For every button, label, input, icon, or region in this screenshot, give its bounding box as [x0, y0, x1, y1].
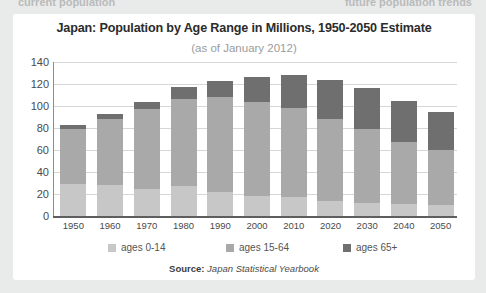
- bar-segment-2030-ages-65-[interactable]: [354, 88, 380, 129]
- x-axis-tick-2010: 2010: [274, 220, 314, 231]
- bar-segment-2000-ages-15-64[interactable]: [244, 102, 270, 197]
- bar-segment-2020-ages-65-[interactable]: [317, 80, 343, 120]
- x-axis-tick-2050: 2050: [421, 220, 461, 231]
- bar-segment-2050-ages-65-[interactable]: [428, 112, 454, 151]
- x-axis-tick-1990: 1990: [200, 220, 240, 231]
- top-right-text-fragment: future population trends: [345, 0, 472, 8]
- bar-segment-1960-ages-15-64[interactable]: [97, 119, 123, 185]
- y-axis-tick-20: 20: [17, 189, 49, 200]
- bar-segment-2030-ages-0-14[interactable]: [354, 203, 380, 216]
- legend-swatch-icon: [226, 244, 234, 252]
- bar-segment-1960-ages-0-14[interactable]: [97, 185, 123, 216]
- legend-item-ages-15-64[interactable]: ages 15-64: [226, 242, 289, 253]
- y-axis-tick-80: 80: [17, 123, 49, 134]
- bar-segment-2020-ages-0-14[interactable]: [317, 201, 343, 216]
- y-axis-tick-0: 0: [17, 211, 49, 222]
- bar-series-group: [53, 62, 457, 216]
- x-axis-line: [53, 216, 457, 218]
- bar-2010[interactable]: [281, 75, 307, 216]
- legend-label: ages 15-64: [239, 242, 289, 253]
- bar-segment-1950-ages-0-14[interactable]: [60, 184, 86, 216]
- y-axis-tick-120: 120: [17, 79, 49, 90]
- bar-segment-2040-ages-15-64[interactable]: [391, 142, 417, 204]
- chart-source: Source: Japan Statistical Yearbook: [13, 263, 475, 274]
- x-axis-tick-2000: 2000: [237, 220, 277, 231]
- chart-legend: ages 0-14ages 15-64ages 65+: [13, 242, 475, 256]
- bar-segment-1990-ages-0-14[interactable]: [207, 192, 233, 216]
- x-axis-tick-labels: 1950196019701980199020002010202020302040…: [53, 220, 457, 234]
- bar-1960[interactable]: [97, 114, 123, 216]
- y-axis-tick-100: 100: [17, 101, 49, 112]
- bar-segment-2000-ages-65-[interactable]: [244, 77, 270, 101]
- y-axis-tick-40: 40: [17, 167, 49, 178]
- bar-segment-1990-ages-65-[interactable]: [207, 81, 233, 98]
- bar-1990[interactable]: [207, 81, 233, 216]
- bar-segment-2000-ages-0-14[interactable]: [244, 196, 270, 216]
- bar-2050[interactable]: [428, 112, 454, 217]
- bar-segment-1970-ages-15-64[interactable]: [134, 109, 160, 188]
- bar-1980[interactable]: [171, 87, 197, 216]
- x-axis-tick-2040: 2040: [384, 220, 424, 231]
- plot-area: [53, 62, 457, 216]
- bar-2020[interactable]: [317, 80, 343, 216]
- bar-segment-1950-ages-15-64[interactable]: [60, 129, 86, 184]
- top-left-text-fragment: current population: [18, 0, 115, 8]
- x-axis-tick-1960: 1960: [90, 220, 130, 231]
- y-axis-tick-labels: 020406080100120140: [17, 62, 49, 230]
- chart-plot-wrapper: 020406080100120140 195019601970198019902…: [13, 14, 475, 280]
- bar-2030[interactable]: [354, 88, 380, 216]
- source-value: Japan Statistical Yearbook: [207, 263, 319, 274]
- bar-segment-1990-ages-15-64[interactable]: [207, 97, 233, 192]
- bar-segment-1980-ages-0-14[interactable]: [171, 186, 197, 216]
- bar-1970[interactable]: [134, 102, 160, 216]
- x-axis-tick-2020: 2020: [310, 220, 350, 231]
- bar-segment-1970-ages-65-[interactable]: [134, 102, 160, 110]
- x-axis-tick-1980: 1980: [164, 220, 204, 231]
- bar-segment-1980-ages-65-[interactable]: [171, 87, 197, 99]
- bar-segment-2040-ages-65-[interactable]: [391, 101, 417, 143]
- bar-segment-2040-ages-0-14[interactable]: [391, 204, 417, 216]
- bar-segment-2010-ages-0-14[interactable]: [281, 197, 307, 216]
- y-axis-tick-60: 60: [17, 145, 49, 156]
- legend-swatch-icon: [343, 244, 351, 252]
- bar-segment-1970-ages-0-14[interactable]: [134, 189, 160, 217]
- y-axis-tick-140: 140: [17, 57, 49, 68]
- bar-segment-2050-ages-15-64[interactable]: [428, 150, 454, 205]
- bar-2000[interactable]: [244, 77, 270, 216]
- x-axis-tick-2030: 2030: [347, 220, 387, 231]
- legend-item-ages-65-[interactable]: ages 65+: [343, 242, 397, 253]
- bar-2040[interactable]: [391, 101, 417, 216]
- legend-swatch-icon: [108, 244, 116, 252]
- bar-segment-2030-ages-15-64[interactable]: [354, 129, 380, 203]
- legend-item-ages-0-14[interactable]: ages 0-14: [108, 242, 165, 253]
- bar-segment-1980-ages-15-64[interactable]: [171, 99, 197, 186]
- bar-segment-2010-ages-65-[interactable]: [281, 75, 307, 108]
- bar-segment-2050-ages-0-14[interactable]: [428, 205, 454, 216]
- legend-label: ages 0-14: [121, 242, 165, 253]
- chart-card: Japan: Population by Age Range in Millio…: [13, 14, 475, 280]
- source-label: Source:: [169, 263, 204, 274]
- bar-segment-2020-ages-15-64[interactable]: [317, 119, 343, 200]
- legend-label: ages 65+: [356, 242, 397, 253]
- x-axis-tick-1950: 1950: [53, 220, 93, 231]
- x-axis-tick-1970: 1970: [127, 220, 167, 231]
- bar-1950[interactable]: [60, 125, 86, 216]
- bar-segment-2010-ages-15-64[interactable]: [281, 108, 307, 197]
